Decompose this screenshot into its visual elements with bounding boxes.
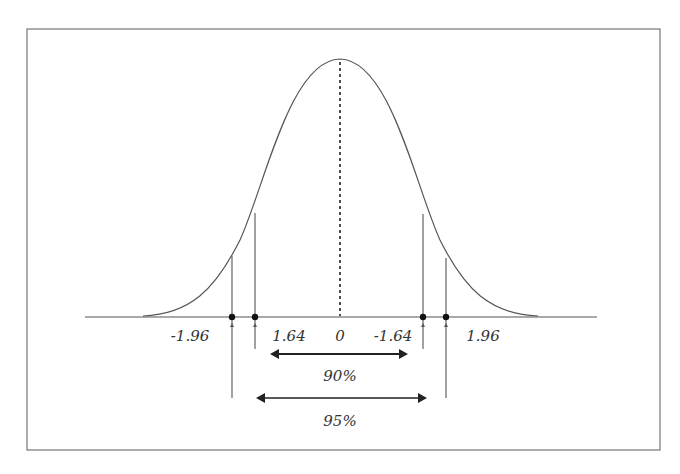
bell-curve [143,59,538,316]
interval-arrow-90 [270,349,408,359]
interval-arrow-95 [256,393,427,403]
label-center: 0 [335,327,345,345]
normal-distribution-figure: -1.96 1.64 0 -1.64 1.96 90% 95% [0,0,680,474]
label-right-95: 1.96 [466,327,500,345]
point-right-90 [420,314,426,320]
point-right-95 [443,314,449,320]
figure-frame [27,29,660,450]
label-interval-90: 90% [323,367,356,385]
label-right-90: -1.64 [374,327,412,345]
label-interval-95: 95% [323,412,356,430]
point-left-95 [229,314,235,320]
label-left-95: -1.96 [171,327,210,345]
label-left-90: 1.64 [272,327,305,345]
point-left-90 [252,314,258,320]
